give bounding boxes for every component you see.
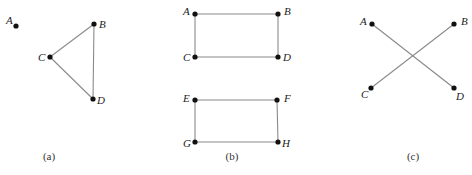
vertex-c xyxy=(368,85,373,90)
vertex-d xyxy=(275,54,280,59)
edge-F-H xyxy=(277,100,278,142)
vertex-label: B xyxy=(99,18,106,30)
vertex-label: D xyxy=(96,94,105,106)
vertex-label: G xyxy=(183,137,191,149)
vertex-b xyxy=(275,11,280,16)
vertex-label: H xyxy=(281,137,291,149)
edge-B-C xyxy=(50,24,94,57)
vertex-label: D xyxy=(282,51,291,63)
vertex-label: A xyxy=(359,15,367,27)
vertex-c xyxy=(47,54,52,59)
panel-b: ABCDEFGH(b) xyxy=(182,5,291,163)
panel-c: ABCD(c) xyxy=(359,15,468,163)
vertex-label: C xyxy=(183,51,191,63)
edge-C-D xyxy=(50,57,93,99)
vertex-e xyxy=(192,97,197,102)
vertex-d xyxy=(90,96,95,101)
graph-figure: ABCD(a)ABCDEFGH(b)ABCD(c) xyxy=(0,0,472,175)
vertex-label: F xyxy=(283,92,291,104)
vertex-label: B xyxy=(461,15,468,27)
vertex-c xyxy=(192,54,197,59)
vertex-a xyxy=(192,11,197,16)
panel-caption: (a) xyxy=(43,150,56,163)
vertex-g xyxy=(192,139,197,144)
edge-B-D xyxy=(93,24,94,99)
vertex-label: E xyxy=(182,92,190,104)
vertex-label: C xyxy=(361,88,369,100)
vertex-label: D xyxy=(455,90,464,102)
vertex-b xyxy=(91,21,96,26)
vertex-b xyxy=(451,21,456,26)
vertex-label: A xyxy=(5,14,13,26)
vertex-f xyxy=(274,97,279,102)
vertex-h xyxy=(275,139,280,144)
panel-a: ABCD(a) xyxy=(5,14,106,163)
vertex-label: B xyxy=(284,5,291,17)
vertex-a xyxy=(369,21,374,26)
vertex-label: C xyxy=(38,51,46,63)
panel-caption: (b) xyxy=(226,150,239,163)
panel-caption: (c) xyxy=(407,150,420,163)
figure-svg: ABCD(a)ABCDEFGH(b)ABCD(c) xyxy=(0,0,472,175)
vertex-a xyxy=(13,23,18,28)
vertex-label: A xyxy=(182,5,190,17)
